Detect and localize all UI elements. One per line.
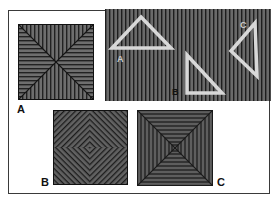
square-b	[53, 110, 128, 185]
label-square-c: C	[217, 177, 225, 188]
label-triangle-c: C	[240, 21, 247, 30]
label-square-a: A	[17, 104, 25, 115]
square-a	[18, 24, 94, 100]
label-square-b: B	[41, 177, 49, 188]
triangles-panel: A B C	[105, 9, 271, 101]
label-triangle-b: B	[172, 88, 179, 97]
square-c	[137, 110, 213, 186]
label-triangle-a: A	[117, 55, 124, 64]
